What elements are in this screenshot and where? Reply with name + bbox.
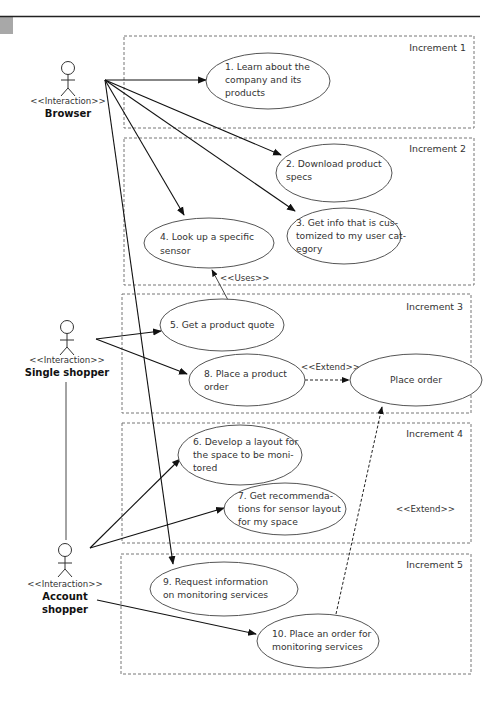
svg-text:sensor: sensor <box>160 245 191 256</box>
svg-text:Place order: Place order <box>390 374 442 385</box>
use-case-4[interactable]: 4. Look up a specific sensor <box>144 218 274 268</box>
use-case-1[interactable]: 1. Learn about the company and its produ… <box>206 53 330 109</box>
svg-text:company and its: company and its <box>225 74 302 85</box>
svg-text:tored: tored <box>193 462 217 473</box>
actor-stereotype: <<Interaction>> <box>29 355 104 365</box>
svg-text:products: products <box>225 87 265 98</box>
increment-1-label: Increment 1 <box>409 42 466 53</box>
use-case-9[interactable]: 9. Request information on monitoring ser… <box>150 562 298 616</box>
svg-text:8. Place a product: 8. Place a product <box>204 368 287 379</box>
use-case-6[interactable]: 6. Develop a layout for the space to be … <box>178 425 302 485</box>
actor-account-shopper: <<Interaction>> Account shopper <box>27 544 102 616</box>
actor-name: Single shopper <box>25 367 110 378</box>
actor-name-line-1: Account <box>42 591 88 602</box>
actor-stereotype: <<Interaction>> <box>27 579 102 589</box>
svg-text:2. Download product: 2. Download product <box>286 158 382 169</box>
increment-3-label: Increment 3 <box>406 301 463 312</box>
svg-text:4. Look up a specific: 4. Look up a specific <box>160 231 254 242</box>
svg-text:9. Request information: 9. Request information <box>163 576 268 587</box>
corner-tab <box>0 16 13 34</box>
svg-text:3. Get info that is cus-: 3. Get info that is cus- <box>296 217 398 228</box>
use-case-place-order[interactable]: Place order <box>350 354 482 406</box>
svg-text:10. Place an order for: 10. Place an order for <box>272 628 372 639</box>
extend-label-1: <<Extend>> <box>301 362 360 372</box>
svg-text:1. Learn about the: 1. Learn about the <box>225 61 310 72</box>
svg-text:tomized to my user cat-: tomized to my user cat- <box>296 230 406 241</box>
actor-stereotype: <<Interaction>> <box>30 96 105 106</box>
extend-label-2: <<Extend>> <box>396 504 455 514</box>
svg-text:6. Develop a layout for: 6. Develop a layout for <box>193 436 298 447</box>
svg-text:tions for sensor layout: tions for sensor layout <box>238 503 341 514</box>
use-case-10[interactable]: 10. Place an order for monitoring servic… <box>257 614 379 668</box>
stick-figure-icon <box>58 544 72 578</box>
actor-browser: <<Interaction>> Browser <box>30 62 105 120</box>
uses-label: <<Uses>> <box>220 273 269 283</box>
stick-figure-icon <box>60 321 74 356</box>
svg-text:specs: specs <box>286 171 312 182</box>
svg-text:5. Get a product quote: 5. Get a product quote <box>170 319 275 330</box>
svg-text:for my space: for my space <box>238 516 298 527</box>
use-case-diagram: Increment 1 Increment 2 Increment 3 Incr… <box>0 0 496 703</box>
use-case-8[interactable]: 8. Place a product order <box>189 354 305 406</box>
increment-4-label: Increment 4 <box>406 428 463 439</box>
actor-name-line-2: shopper <box>42 604 88 615</box>
increment-2-label: Increment 2 <box>409 143 466 154</box>
svg-text:order: order <box>204 381 229 392</box>
svg-text:7. Get recommenda-: 7. Get recommenda- <box>238 490 333 501</box>
stick-figure-icon <box>61 62 75 97</box>
actor-name: Browser <box>45 108 91 119</box>
actor-single-shopper: <<Interaction>> Single shopper <box>25 321 110 379</box>
use-case-3[interactable]: 3. Get info that is cus- tomized to my u… <box>287 208 406 264</box>
use-case-5[interactable]: 5. Get a product quote <box>160 299 284 351</box>
svg-text:on monitoring services: on monitoring services <box>163 589 268 600</box>
svg-text:egory: egory <box>296 243 323 254</box>
increment-5-label: Increment 5 <box>406 559 463 570</box>
svg-text:monitoring services: monitoring services <box>272 641 363 652</box>
svg-text:the space to be moni-: the space to be moni- <box>193 449 294 460</box>
use-case-7[interactable]: 7. Get recommenda- tions for sensor layo… <box>224 483 346 535</box>
use-case-2[interactable]: 2. Download product specs <box>276 144 392 202</box>
